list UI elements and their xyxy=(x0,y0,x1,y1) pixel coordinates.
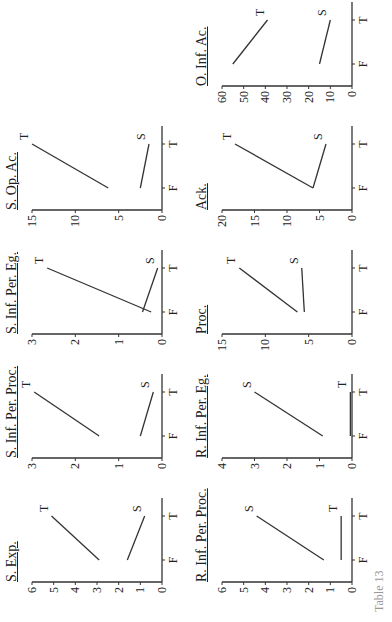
panel-s-inf-per-eg: S. Inf. Per. Eg.0123FTTS xyxy=(4,244,174,362)
panel-plot: 0123FTTS xyxy=(4,244,174,362)
series-label: S xyxy=(287,257,301,264)
panel-s-inf-per-proc: S. Inf. Per. Proc.0123FTTS xyxy=(4,368,174,486)
x-tick-label: F xyxy=(356,556,370,563)
y-tick-label: 40 xyxy=(258,91,272,103)
x-tick-label: T xyxy=(356,16,370,24)
series-label: T xyxy=(326,504,340,512)
x-tick-label: T xyxy=(166,140,180,148)
series-line-s xyxy=(313,144,326,188)
y-tick-label: 0 xyxy=(345,463,359,469)
y-tick-label: 5 xyxy=(313,215,327,221)
series-label: S xyxy=(143,257,157,264)
y-tick-label: 0 xyxy=(155,463,169,469)
x-tick-label: T xyxy=(356,388,370,396)
x-tick-label: T xyxy=(356,264,370,272)
y-tick-label: 5 xyxy=(237,587,251,593)
x-tick-label: F xyxy=(166,556,180,563)
series-line-t xyxy=(239,268,297,312)
y-tick-label: 1 xyxy=(133,587,147,593)
series-line-t xyxy=(235,144,313,188)
series-line-t xyxy=(233,20,268,64)
series-label: T xyxy=(32,256,46,264)
panel-o-inf-ac: O. Inf. Ac.0102030405060FTTS xyxy=(194,0,364,114)
y-tick-label: 0 xyxy=(155,339,169,345)
y-tick-label: 2 xyxy=(68,463,82,469)
y-tick-label: 6 xyxy=(25,587,39,593)
y-tick-label: 0 xyxy=(345,91,359,97)
panel-proc: Proc.051015FTTS xyxy=(194,244,364,362)
panel-plot: 051015FTTS xyxy=(194,244,364,362)
series-label: S xyxy=(315,9,329,16)
x-tick-label: F xyxy=(166,308,180,315)
x-tick-label: T xyxy=(356,512,370,520)
y-tick-label: 1 xyxy=(323,587,337,593)
y-tick-label: 1 xyxy=(112,339,126,345)
x-tick-label: F xyxy=(166,432,180,439)
series-label: T xyxy=(37,504,51,512)
y-tick-label: 4 xyxy=(68,587,82,593)
x-tick-label: F xyxy=(356,60,370,67)
y-tick-label: 2 xyxy=(302,587,316,593)
panel-ack: Ack.05101520FTTS xyxy=(194,120,364,238)
panel-s-exp: S. Exp.0123456FTTS xyxy=(4,492,174,610)
y-tick-label: 15 xyxy=(248,215,262,227)
y-tick-label: 0 xyxy=(155,215,169,221)
y-tick-label: 3 xyxy=(248,463,262,469)
y-tick-label: 1 xyxy=(313,463,327,469)
y-tick-label: 2 xyxy=(280,463,294,469)
x-tick-label: F xyxy=(356,308,370,315)
panel-plot: 05101520FTTS xyxy=(194,120,364,238)
x-tick-label: F xyxy=(356,432,370,439)
y-tick-label: 0 xyxy=(155,587,169,593)
y-tick-label: 3 xyxy=(25,463,39,469)
x-tick-label: F xyxy=(166,184,180,191)
series-label: T xyxy=(220,132,234,140)
rotated-figure: S. Exp.0123456FTTS S. Inf. Per. Proc.012… xyxy=(0,0,392,622)
series-label: S xyxy=(240,381,254,388)
y-tick-label: 50 xyxy=(237,91,251,103)
panel-plot: 0123FTTS xyxy=(4,368,174,486)
series-label: T xyxy=(19,380,33,388)
y-tick-label: 10 xyxy=(323,91,337,103)
series-line-s xyxy=(140,392,153,436)
panel-plot: 0123456FTST xyxy=(194,492,364,610)
panel-plot: 01234FTST xyxy=(194,368,364,486)
series-label: S xyxy=(138,381,152,388)
series-label: S xyxy=(134,133,148,140)
y-tick-label: 1 xyxy=(112,463,126,469)
series-line-t xyxy=(47,268,151,312)
series-line-t xyxy=(34,392,99,436)
y-tick-label: 60 xyxy=(215,91,229,103)
y-tick-label: 10 xyxy=(68,215,82,227)
panel-plot: 0123456FTTS xyxy=(4,492,174,610)
y-tick-label: 0 xyxy=(345,587,359,593)
y-tick-label: 30 xyxy=(280,91,294,103)
y-tick-label: 2 xyxy=(68,339,82,345)
figure-caption: Table 13 xyxy=(372,12,387,612)
series-label: T xyxy=(335,380,349,388)
series-line-s xyxy=(257,516,324,560)
y-tick-label: 10 xyxy=(280,215,294,227)
panel-plot: 051015FTTS xyxy=(4,120,174,238)
y-tick-label: 4 xyxy=(258,587,272,593)
series-label: T xyxy=(17,132,31,140)
x-tick-label: T xyxy=(166,388,180,396)
series-line-t xyxy=(32,144,108,188)
series-label: T xyxy=(253,8,267,16)
y-tick-label: 2 xyxy=(112,587,126,593)
x-tick-label: T xyxy=(356,140,370,148)
series-label: S xyxy=(311,133,325,140)
y-tick-label: 15 xyxy=(25,215,39,227)
y-tick-label: 0 xyxy=(345,339,359,345)
panel-s-op-ac: S. Op. Ac.051015FTTS xyxy=(4,120,174,238)
series-line-s xyxy=(255,392,323,436)
y-tick-label: 20 xyxy=(302,91,316,103)
y-tick-label: 20 xyxy=(215,215,229,227)
y-tick-label: 3 xyxy=(90,587,104,593)
y-tick-label: 3 xyxy=(280,587,294,593)
panel-plot: 0102030405060FTTS xyxy=(194,0,364,114)
y-tick-label: 5 xyxy=(302,339,316,345)
y-tick-label: 5 xyxy=(112,215,126,221)
series-line-s xyxy=(302,268,305,312)
series-line-s xyxy=(143,268,158,312)
